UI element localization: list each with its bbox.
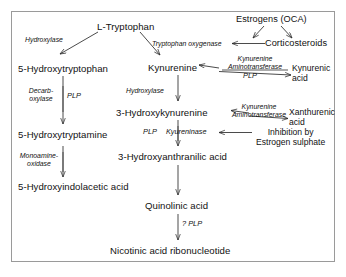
enzyme-hydroxylase-mid: Hydroxylase	[126, 87, 164, 95]
node-kynurenic-acid: Kynurenic acid	[292, 63, 330, 83]
diagram-canvas: L-Tryptophan 5-Hydroxytryptophan Kynuren…	[0, 0, 346, 277]
kat1-line1: Kynurenine	[218, 55, 292, 63]
enzyme-kynurenine-aminotransferase-1: Kynurenine Aminotransferase	[218, 55, 292, 70]
node-nicotinic-acid-ribonucleotide: Nicotinic acid ribonucleotide	[110, 246, 230, 256]
enzyme-tryptophan-oxygenase: Tryptophan oxygenase	[152, 40, 222, 48]
cofactor-plp-quinolinic: ? PLP	[182, 219, 202, 228]
monoamine-oxidase-line2: oxidase	[17, 160, 61, 168]
kat2-line2: Aminotransferase	[224, 111, 294, 119]
node-kynurenine: Kynurenine	[148, 63, 197, 73]
node-kynurenic-acid-line1: Kynurenic	[292, 63, 330, 73]
enzyme-kynurenine-aminotransferase-2: Kynurenine Aminotransferase	[224, 103, 294, 118]
node-quinolinic-acid: Quinolinic acid	[145, 201, 208, 211]
node-5-hydroxytryptophan: 5-Hydroxytryptophan	[18, 64, 108, 74]
cofactor-plp-kyureninase: PLP	[143, 127, 157, 136]
node-5-hydroxyindolacetic-acid: 5-Hydroxyindolacetic acid	[18, 182, 129, 192]
inhibition-line2: Estrogen sulphate	[256, 137, 325, 147]
monoamine-oxidase-line1: Monoamine-	[17, 152, 61, 160]
kat1-line2: Aminotransferase	[218, 63, 292, 71]
node-5-hydroxytryptamine: 5-Hydroxytryptamine	[18, 130, 107, 140]
node-inhibition-estrogen-sulphate: Inhibition by Estrogen sulphate	[256, 127, 325, 147]
node-3-hydroxyanthranilic-acid: 3-Hydroxyanthranilic acid	[118, 152, 227, 162]
enzyme-monoamine-oxidase: Monoamine- oxidase	[17, 152, 61, 167]
cofactor-plp-decarboxylase: PLP	[67, 91, 81, 100]
node-3-hydroxykynurenine: 3-Hydroxykynurenine	[116, 108, 208, 118]
inhibition-line1: Inhibition by	[256, 127, 325, 137]
decarboxylase-line2: oxylase	[22, 95, 60, 103]
enzyme-hydroxylase-top: Hydroxylase	[25, 36, 63, 44]
enzyme-kyureninase: Kyureninase	[166, 128, 207, 136]
node-kynurenic-acid-line2: acid	[292, 73, 330, 83]
enzyme-decarboxylase: Decarb- oxylase	[22, 87, 60, 102]
kat2-line1: Kynurenine	[224, 103, 294, 111]
node-estrogens-oca: Estrogens (OCA)	[236, 15, 307, 25]
cofactor-plp-kat1: PLP	[243, 71, 257, 80]
node-xanthurenic-acid-line2: acid	[289, 117, 335, 127]
decarboxylase-line1: Decarb-	[22, 87, 60, 95]
node-xanthurenic-acid-line1: Xanthurenic	[289, 107, 335, 117]
node-l-tryptophan: L-Tryptophan	[97, 22, 154, 32]
node-xanthurenic-acid: Xanthurenic acid	[289, 107, 335, 127]
node-corticosteroids: Corticosteroids	[265, 39, 327, 49]
